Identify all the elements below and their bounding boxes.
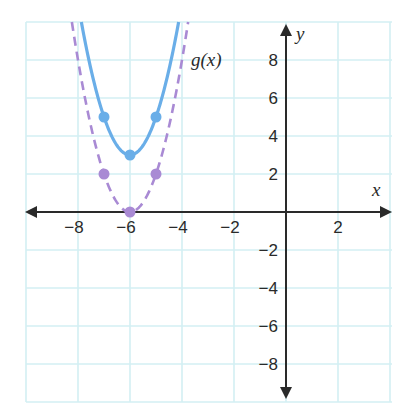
y-tick-label: 8 xyxy=(269,51,278,70)
g-point xyxy=(99,169,110,180)
y-tick-label: 6 xyxy=(269,89,278,108)
x-tick-label: −8 xyxy=(64,218,83,237)
g-curve-label: g(x) xyxy=(191,49,222,71)
x-axis-label: x xyxy=(371,179,381,200)
y-axis-label: y xyxy=(294,23,305,44)
x-tick-label: −6 xyxy=(116,218,135,237)
f-point xyxy=(125,150,136,161)
y-tick-label: −2 xyxy=(259,241,278,260)
x-tick-label: −4 xyxy=(168,218,187,237)
coordinate-plane: −8−6−4−228642−2−4−6−8 x y g(x) xyxy=(0,0,407,417)
g-point xyxy=(151,169,162,180)
y-axis-arrow-bottom xyxy=(280,387,292,399)
y-axis-arrow-top xyxy=(280,24,292,36)
y-tick-label: −8 xyxy=(259,355,278,374)
g-point xyxy=(125,207,136,218)
f-point xyxy=(99,112,110,123)
x-tick-label: −2 xyxy=(220,218,239,237)
y-tick-label: 2 xyxy=(269,165,278,184)
y-tick-label: −4 xyxy=(259,279,278,298)
f-point xyxy=(151,112,162,123)
axes xyxy=(25,24,392,399)
y-tick-label: 4 xyxy=(269,127,278,146)
x-tick-label: 2 xyxy=(333,218,342,237)
y-tick-label: −6 xyxy=(259,317,278,336)
